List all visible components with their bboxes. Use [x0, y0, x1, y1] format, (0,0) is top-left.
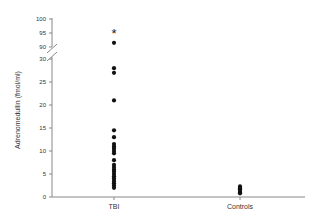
data-point	[238, 191, 242, 195]
y-tick-label: 100	[36, 16, 47, 22]
y-tick-label: 90	[39, 44, 46, 50]
y-tick-label: 5	[43, 171, 47, 177]
data-point	[112, 135, 116, 139]
data-point	[112, 186, 116, 190]
y-tick-label: 30	[39, 56, 46, 62]
scatter-chart: 100 95 90 30 25 20 15 10 5 0 Adrenomedul…	[0, 0, 324, 217]
x-label-tbi: TBI	[109, 203, 120, 210]
data-point	[112, 71, 116, 75]
y-tick-label: 20	[39, 102, 46, 108]
data-point	[112, 158, 116, 162]
data-point	[112, 98, 116, 102]
y-tick-label: 15	[39, 125, 46, 131]
data-point	[112, 66, 116, 70]
y-axis-label: Adrenomedullin (fmol/ml)	[14, 71, 22, 149]
data-point	[112, 41, 116, 45]
series-controls	[238, 184, 242, 195]
y-tick-label: 0	[43, 194, 47, 200]
significance-star: *	[111, 26, 116, 41]
x-label-controls: Controls	[227, 203, 254, 210]
y-tick-label: 25	[39, 79, 46, 85]
y-tick-label: 95	[39, 30, 46, 36]
data-point	[112, 151, 116, 155]
series-tbi	[112, 41, 116, 190]
data-point	[112, 128, 116, 132]
y-tick-label: 10	[39, 148, 46, 154]
